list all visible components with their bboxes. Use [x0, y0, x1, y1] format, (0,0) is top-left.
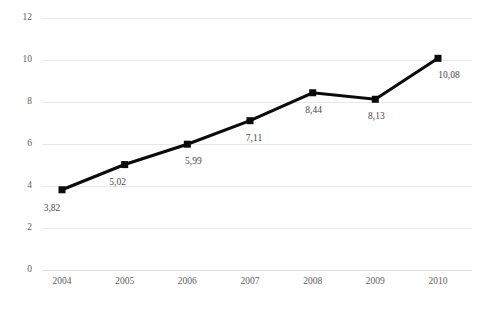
chart-plot-area: [0, 0, 488, 310]
data-point-label: 10,08: [428, 71, 470, 81]
y-axis-tick-label: 2: [6, 223, 32, 233]
series-group: [59, 55, 442, 193]
y-axis-tick-label: 8: [6, 97, 32, 107]
series-markers: [59, 55, 442, 193]
data-point-label: 7,11: [233, 134, 275, 144]
x-axis-tick-label: 2010: [416, 277, 460, 287]
series-marker: [59, 186, 66, 193]
gridlines: [42, 19, 472, 271]
data-point-label: 8,13: [355, 112, 397, 122]
y-axis-tick-label: 12: [6, 13, 32, 23]
y-axis-tick-label: 4: [6, 181, 32, 191]
x-axis-tick-label: 2006: [165, 277, 209, 287]
y-axis-tick-label: 6: [6, 139, 32, 149]
data-point-label: 5,02: [97, 178, 139, 188]
series-marker: [184, 141, 191, 148]
x-axis-tick-label: 2004: [40, 277, 84, 287]
data-point-label: 8,44: [293, 106, 335, 116]
y-axis-tick-label: 0: [6, 265, 32, 275]
series-marker: [121, 161, 128, 168]
y-axis-tick-label: 10: [6, 55, 32, 65]
x-axis-tick-label: 2008: [291, 277, 335, 287]
x-axis-tick-label: 2009: [353, 277, 397, 287]
series-marker: [309, 89, 316, 96]
data-point-label: 3,82: [31, 204, 73, 214]
series-marker: [372, 96, 379, 103]
series-marker: [247, 117, 254, 124]
line-chart: 024681012 2004200520062007200820092010 3…: [0, 0, 488, 310]
data-point-label: 5,99: [172, 157, 214, 167]
series-marker: [435, 55, 442, 62]
x-axis-tick-label: 2005: [103, 277, 147, 287]
x-axis-tick-label: 2007: [228, 277, 272, 287]
